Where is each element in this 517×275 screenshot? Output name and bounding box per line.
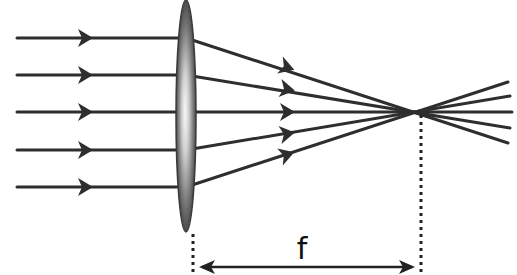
refracted-ray-5 [186,82,508,187]
refracted-ray-1 [186,38,508,143]
incident-rays [17,38,186,187]
refracted-ray-4 [186,96,510,150]
focal-length-label: f [297,231,309,266]
refracted-rays [186,38,512,187]
lens-diagram: f [0,0,517,275]
arrow-icon [277,144,297,166]
refracted-ray-2 [186,75,510,128]
convex-lens [176,0,196,232]
